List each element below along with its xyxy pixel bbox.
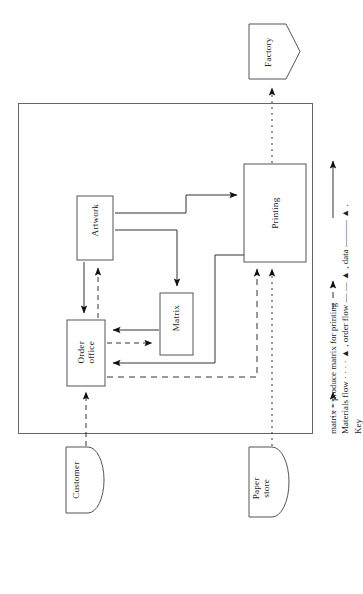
- key-title: Key: [353, 419, 363, 434]
- external-entity-paper-store[interactable]: [249, 447, 289, 517]
- key-line-flows: Materials flow · · · · ▲ , order flow — …: [340, 204, 350, 434]
- diagram-canvas: Artwork Order office Matrix Printing Cus…: [0, 0, 363, 594]
- flow-diagram-svg: [0, 0, 363, 594]
- process-box-matrix[interactable]: [160, 293, 193, 355]
- external-entity-customer[interactable]: [66, 447, 104, 513]
- process-box-order-office[interactable]: [67, 320, 105, 386]
- process-box-artwork[interactable]: [77, 196, 113, 260]
- external-entity-factory[interactable]: [249, 24, 300, 79]
- process-box-printing[interactable]: [244, 164, 306, 262]
- system-boundary: [19, 104, 313, 434]
- key-line-matrix-definition: matrix = produce matrix for printing: [328, 303, 338, 434]
